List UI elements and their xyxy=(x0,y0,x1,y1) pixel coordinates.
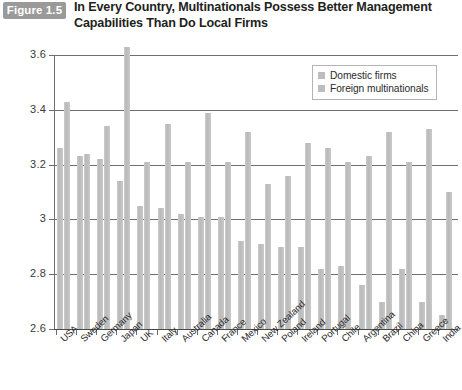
chart-legend: Domestic firmsForeign multinationals xyxy=(312,65,437,100)
bar-group xyxy=(137,40,157,330)
legend-item: Domestic firms xyxy=(318,69,429,82)
bar-foreign xyxy=(245,132,251,329)
y-tick-label: 3 xyxy=(14,212,46,224)
bar-foreign xyxy=(185,162,191,329)
bar-domestic xyxy=(57,148,63,329)
legend-swatch-icon xyxy=(318,72,325,79)
bar-foreign xyxy=(64,102,70,329)
bar-domestic xyxy=(359,285,365,329)
y-tick-label: 3.4 xyxy=(14,103,46,115)
bar-foreign xyxy=(426,129,432,329)
x-tick-mark xyxy=(56,330,57,335)
legend-label: Foreign multinationals xyxy=(330,82,429,95)
bar-domestic xyxy=(399,269,405,329)
y-tick-label: 2.6 xyxy=(14,322,46,334)
bar-domestic xyxy=(218,217,224,329)
bar-foreign xyxy=(366,156,372,329)
bar-foreign xyxy=(305,143,311,329)
bar-domestic xyxy=(178,214,184,329)
bar-group xyxy=(278,40,298,330)
bar-foreign xyxy=(325,148,331,329)
bar-group xyxy=(97,40,117,330)
y-tick-label: 3.2 xyxy=(14,158,46,170)
legend-swatch-icon xyxy=(318,85,325,92)
bar-foreign xyxy=(225,162,231,329)
bar-foreign xyxy=(104,126,110,329)
bar-foreign xyxy=(345,162,351,329)
bar-group xyxy=(198,40,218,330)
bar-foreign xyxy=(165,124,171,330)
bar-domestic xyxy=(117,181,123,329)
bar-foreign xyxy=(124,47,130,329)
y-tick-label: 2.8 xyxy=(14,267,46,279)
bar-group xyxy=(158,40,178,330)
bar-foreign xyxy=(406,162,412,329)
bar-group xyxy=(258,40,278,330)
legend-label: Domestic firms xyxy=(330,69,397,82)
x-tick-mark xyxy=(157,330,158,335)
bar-group xyxy=(117,40,137,330)
bar-domestic xyxy=(158,208,164,329)
bar-group xyxy=(439,40,459,330)
bar-domestic xyxy=(137,206,143,329)
bar-group xyxy=(57,40,77,330)
bar-foreign xyxy=(144,162,150,329)
bar-group xyxy=(178,40,198,330)
y-tick-label: 3.6 xyxy=(14,48,46,60)
bar-group xyxy=(218,40,238,330)
bar-group xyxy=(77,40,97,330)
bar-foreign xyxy=(265,184,271,329)
bar-foreign xyxy=(386,132,392,329)
legend-item: Foreign multinationals xyxy=(318,82,429,95)
bar-foreign xyxy=(84,154,90,329)
bar-domestic xyxy=(97,159,103,329)
bar-foreign xyxy=(205,113,211,329)
bar-group xyxy=(238,40,258,330)
bar-domestic xyxy=(77,156,83,329)
bar-foreign xyxy=(446,192,452,329)
